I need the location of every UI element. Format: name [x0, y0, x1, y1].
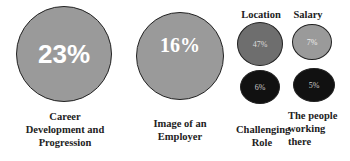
bubble-location: 47% — [237, 22, 283, 66]
value-people-working-there: 5% — [309, 81, 320, 90]
label-challenging-role: Challenging Role — [236, 123, 288, 149]
value-salary: 7% — [307, 38, 318, 47]
bubble-people-working-there: 5% — [293, 68, 335, 102]
bubble-salary: 7% — [292, 24, 332, 60]
label-image-of-employer: Image of an Employer — [130, 117, 230, 143]
value-image-of-employer: 16% — [160, 34, 200, 57]
label-salary: Salary — [288, 8, 328, 21]
label-location: Location — [236, 8, 286, 21]
bubble-career-development: 23% — [16, 6, 112, 102]
label-career-development: Career Development and Progression — [10, 110, 120, 149]
value-location: 47% — [253, 40, 268, 49]
bubble-challenging-role: 6% — [240, 70, 280, 104]
bubble-image-of-employer: 16% — [136, 12, 224, 100]
label-people-working-there: The people working there — [288, 109, 338, 148]
value-challenging-role: 6% — [255, 83, 266, 92]
value-career-development: 23% — [38, 39, 90, 70]
